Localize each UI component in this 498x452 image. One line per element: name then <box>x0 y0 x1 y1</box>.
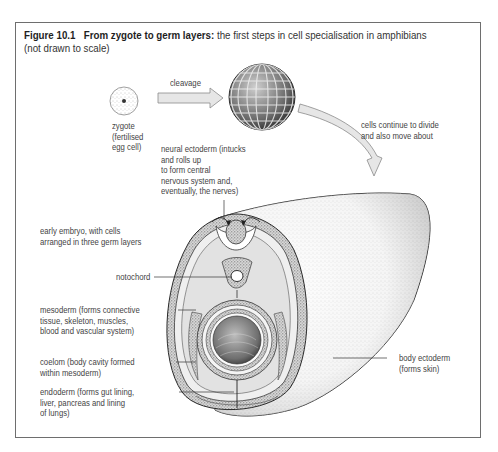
coelom-label: coelom (body cavity formed within mesode… <box>40 357 135 378</box>
zygote-cell <box>110 87 138 115</box>
cleavage-label: cleavage <box>170 78 201 89</box>
cells-divide-label: cells continue to divide and also move a… <box>361 120 439 141</box>
cleavage-arrow-icon <box>158 88 223 108</box>
zygote-label: zygote (fertilised egg cell) <box>112 121 143 153</box>
early-embryo-label: early embryo, with cells arranged in thr… <box>40 226 141 247</box>
body-ectoderm-label: body ectoderm (forms skin) <box>399 353 450 374</box>
notochord-label: notochord <box>116 272 150 283</box>
mesoderm-label: mesoderm (forms connective tissue, skele… <box>40 305 140 337</box>
blastula-ball <box>229 64 295 130</box>
early-embryo <box>167 193 430 416</box>
neural-ectoderm-label: neural ectoderm (intucks and rolls up to… <box>161 144 246 197</box>
endoderm-label: endoderm (forms gut lining, liver, pancr… <box>40 387 134 419</box>
